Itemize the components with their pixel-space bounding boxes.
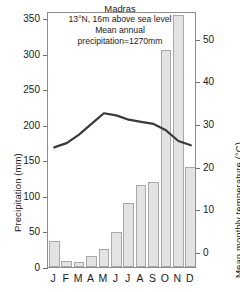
month-label: A — [134, 273, 146, 284]
month-label: A — [84, 273, 96, 284]
month-label: D — [184, 273, 196, 284]
plot-area — [47, 12, 196, 268]
left-tick-label: 100 — [8, 192, 40, 202]
left-tick-label: 300 — [8, 50, 40, 60]
month-label: N — [171, 273, 183, 284]
temperature-line — [48, 13, 196, 268]
month-label: S — [146, 273, 158, 284]
climate-chart: Precipitation (mm) Mean monthly temperat… — [0, 0, 240, 292]
month-label: J — [47, 273, 59, 284]
left-tick-label: 250 — [8, 85, 40, 95]
right-axis-title: Mean monthly temperature (°C) — [233, 142, 240, 278]
month-label: M — [72, 273, 84, 284]
temperature-polyline — [54, 113, 191, 147]
left-tick-label: 200 — [8, 121, 40, 131]
left-tick-mark — [43, 268, 48, 269]
month-label: J — [122, 273, 134, 284]
left-tick-label: 350 — [8, 14, 40, 24]
month-label: J — [109, 273, 121, 284]
left-tick-label: 50 — [8, 227, 40, 237]
left-tick-label: 150 — [8, 156, 40, 166]
left-tick-label: 0 — [8, 263, 40, 273]
month-label: M — [97, 273, 109, 284]
month-label: O — [159, 273, 171, 284]
right-tick-label: 10 — [203, 205, 214, 215]
right-tick-label: 0 — [203, 248, 209, 258]
right-tick-label: 20 — [203, 163, 214, 173]
right-tick-label: 30 — [203, 120, 214, 130]
month-label: F — [59, 273, 71, 284]
right-tick-label: 40 — [203, 77, 214, 87]
right-tick-label: 50 — [203, 35, 214, 45]
